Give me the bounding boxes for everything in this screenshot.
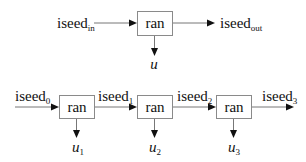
chained-ran-blocks: iseed0 ran u1 iseed1 ran u2 iseed2 ran u… [15, 88, 298, 157]
arrowhead-icon [151, 48, 158, 56]
arrowhead-icon [230, 130, 237, 138]
ran-box-2-label: ran [145, 99, 165, 115]
seed-2-label: iseed2 [177, 88, 212, 106]
result-1-label: u1 [72, 139, 84, 157]
seed-3-label: iseed3 [262, 88, 298, 106]
arrowhead-icon [129, 20, 137, 27]
seed-1-label: iseed1 [98, 88, 133, 106]
seed-out-label: iseedout [220, 15, 263, 33]
arrowhead-icon [151, 130, 158, 138]
ran-box-1-label: ran [67, 99, 87, 115]
arrowhead-icon [73, 130, 80, 138]
ran-box-label: ran [145, 15, 165, 31]
arrowhead-icon [51, 104, 59, 111]
single-ran-block: iseedin ran iseedout u [57, 12, 263, 73]
result-label: u [150, 56, 158, 72]
result-3-label: u3 [228, 139, 241, 157]
result-2-label: u2 [149, 139, 161, 157]
seed-0-label: iseed0 [15, 88, 51, 106]
arrowhead-icon [207, 20, 215, 27]
ran-box-3-label: ran [224, 99, 244, 115]
seed-in-label: iseedin [57, 15, 95, 33]
random-generator-diagram: iseedin ran iseedout u iseed0 ran u1 ise… [0, 0, 306, 162]
